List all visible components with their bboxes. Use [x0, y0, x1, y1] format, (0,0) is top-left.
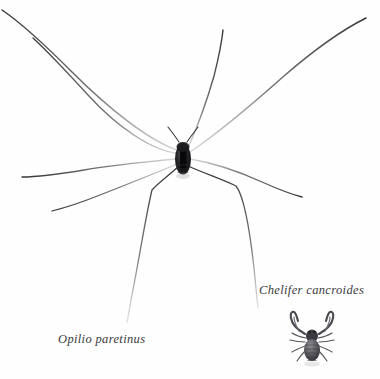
pseudoscorpion-eye-right	[313, 331, 315, 333]
arachnid-plate: Opilio paretinus Chelifer cancroides	[0, 0, 380, 379]
pseudoscorpion-eye-left	[308, 331, 310, 333]
harvestman-body-shadow	[176, 173, 190, 179]
caption-chelifer-cancroides: Chelifer cancroides	[259, 283, 364, 298]
pseudoscorpion-abdomen	[304, 339, 320, 361]
pseudoscorpion-shadow	[304, 362, 320, 367]
plate-illustration	[0, 0, 380, 379]
caption-opilio-paretinus: Opilio paretinus	[58, 332, 145, 347]
harvestman-cephalothorax	[177, 142, 190, 152]
